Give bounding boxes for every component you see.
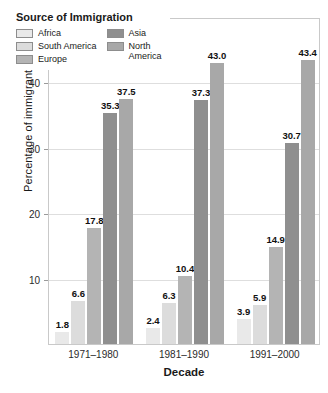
legend-swatch-asia xyxy=(107,29,124,38)
immigration-source-bar-chart: Percentage of immigrants 1020304050% 1.8… xyxy=(0,0,328,393)
bar-europe[interactable]: 10.4 xyxy=(178,18,192,344)
bar-rect xyxy=(285,143,299,344)
bar-value-label: 3.9 xyxy=(237,306,250,317)
bar-value-label: 30.7 xyxy=(282,130,301,141)
bar-rect xyxy=(178,276,192,344)
bar-value-label: 43.0 xyxy=(208,50,227,61)
bar-north-america[interactable]: 43.0 xyxy=(210,18,224,344)
bar-value-label: 2.4 xyxy=(146,315,159,326)
bar-europe[interactable]: 14.9 xyxy=(269,18,283,344)
legend-item[interactable]: North America xyxy=(107,41,162,61)
bar-rect xyxy=(194,100,208,344)
legend-item-label: Africa xyxy=(38,28,61,38)
legend-item-label: Europe xyxy=(38,54,67,64)
legend-swatch-europe xyxy=(16,55,33,64)
bar-value-label: 37.5 xyxy=(117,86,136,97)
bar-value-label: 37.3 xyxy=(192,87,211,98)
bar-value-label: 1.8 xyxy=(56,319,69,330)
bar-rect xyxy=(71,301,85,344)
legend-item-label: North America xyxy=(129,41,162,61)
legend-title: Source of Immigration xyxy=(16,11,162,23)
x-axis-tick-label: 1971–1980 xyxy=(68,349,118,360)
y-axis-tick-label: 30 xyxy=(29,143,40,154)
legend-item[interactable]: Africa xyxy=(16,28,97,38)
legend: Source of Immigration AfricaSouth Americ… xyxy=(8,6,170,70)
bar-value-label: 35.3 xyxy=(101,100,120,111)
bar-value-label: 6.3 xyxy=(162,290,175,301)
bar-value-label: 14.9 xyxy=(266,234,285,245)
bar-rect xyxy=(301,60,315,344)
bar-rect xyxy=(210,63,224,344)
y-axis-tick-label: 40 xyxy=(29,78,40,89)
bar-south-america[interactable]: 5.9 xyxy=(253,18,267,344)
legend-column-right: AsiaNorth America xyxy=(107,28,162,64)
bar-asia[interactable]: 37.3 xyxy=(194,18,208,344)
x-axis-title: Decade xyxy=(48,366,320,378)
bar-rect xyxy=(87,228,101,344)
x-axis-labels: 1971–19801981–19901991–2000 xyxy=(48,349,320,365)
y-axis-tick-label: 10 xyxy=(29,274,40,285)
bar-rect xyxy=(237,319,251,345)
legend-item-label: South America xyxy=(38,41,97,51)
bar-value-label: 43.4 xyxy=(298,47,317,58)
bar-rect xyxy=(55,332,69,344)
legend-item[interactable]: Europe xyxy=(16,54,97,64)
legend-column-left: AfricaSouth AmericaEurope xyxy=(16,28,97,64)
legend-swatch-south-america xyxy=(16,42,33,51)
bar-group: 3.95.914.930.743.4 xyxy=(236,18,316,344)
bar-rect xyxy=(103,113,117,344)
bar-north-america[interactable]: 43.4 xyxy=(301,18,315,344)
legend-swatch-north-america xyxy=(107,42,124,51)
bar-value-label: 5.9 xyxy=(253,292,266,303)
bar-rect xyxy=(119,99,133,344)
legend-item[interactable]: South America xyxy=(16,41,97,51)
bar-rect xyxy=(146,328,160,344)
bar-rect xyxy=(253,305,267,344)
legend-item-label: Asia xyxy=(129,28,147,38)
legend-swatch-africa xyxy=(16,29,33,38)
legend-item[interactable]: Asia xyxy=(107,28,162,38)
bar-value-label: 17.8 xyxy=(85,215,104,226)
bar-africa[interactable]: 3.9 xyxy=(237,18,251,344)
y-axis-tick-label: 20 xyxy=(29,209,40,220)
x-axis-tick-label: 1991–2000 xyxy=(250,349,300,360)
bar-asia[interactable]: 30.7 xyxy=(285,18,299,344)
x-axis-tick-label: 1981–1990 xyxy=(159,349,209,360)
bar-value-label: 10.4 xyxy=(176,263,195,274)
bar-value-label: 6.6 xyxy=(72,288,85,299)
bar-rect xyxy=(269,247,283,344)
bar-rect xyxy=(162,303,176,344)
